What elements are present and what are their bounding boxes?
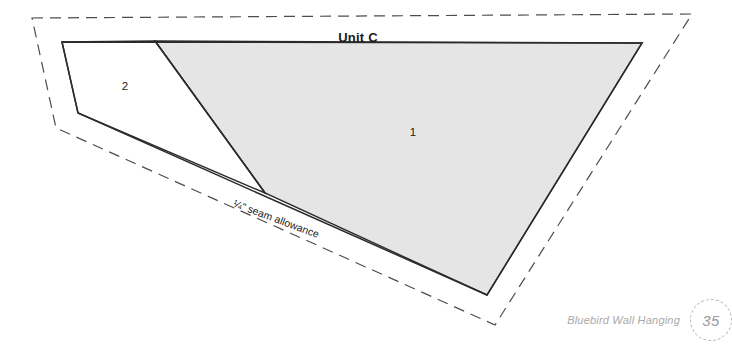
footer-pattern-name: Bluebird Wall Hanging <box>567 314 680 326</box>
footer: Bluebird Wall Hanging 35 <box>567 299 716 341</box>
page-number: 35 <box>702 312 720 329</box>
page-number-badge: 35 <box>690 299 732 341</box>
